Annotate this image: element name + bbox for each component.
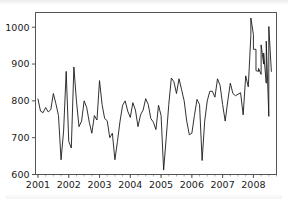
x-tick-label: 2004 — [118, 179, 142, 190]
x-tick-label: 2003 — [87, 179, 111, 190]
x-tick-label: 2008 — [241, 179, 265, 190]
x-tick-label: 2001 — [26, 179, 50, 190]
x-tick-label: 2002 — [57, 179, 81, 190]
y-tick-label: 900 — [11, 58, 29, 69]
y-tick-label: 1000 — [5, 22, 29, 33]
x-axis-tick-labels: 20012002200320042005200620072008 — [26, 179, 266, 190]
y-axis-ticks — [32, 27, 36, 174]
line-chart-plot: 6007008009001000 20012002200320042005200… — [0, 0, 288, 199]
chart-figure: 6007008009001000 20012002200320042005200… — [0, 0, 288, 199]
x-tick-label: 2006 — [180, 179, 204, 190]
y-tick-label: 700 — [11, 132, 29, 143]
y-tick-label: 800 — [11, 95, 29, 106]
y-axis-tick-labels: 6007008009001000 — [5, 22, 29, 180]
x-tick-label: 2005 — [149, 179, 173, 190]
x-tick-label: 2007 — [211, 179, 235, 190]
